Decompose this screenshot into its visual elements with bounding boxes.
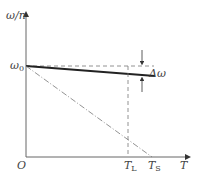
starting-line [26, 66, 152, 157]
omega0-subscript: 0 [19, 64, 24, 73]
y-axis-label: ω/n [6, 10, 26, 21]
omega0-label: ω0 [10, 60, 24, 73]
speed-torque-diagram: ω/n ω0 Δω O TL TS T [0, 0, 202, 180]
diagram-graphics [0, 0, 202, 180]
tl-subscript: L [131, 164, 136, 173]
x-axis-label: T [180, 160, 187, 171]
characteristic-line [26, 66, 155, 76]
ts-subscript: S [155, 164, 160, 173]
origin-label: O [17, 160, 26, 171]
omega0-symbol: ω [10, 59, 19, 72]
delta-omega-label: Δω [149, 68, 166, 79]
tl-label: TL [124, 160, 137, 173]
ts-label: TS [148, 160, 161, 173]
